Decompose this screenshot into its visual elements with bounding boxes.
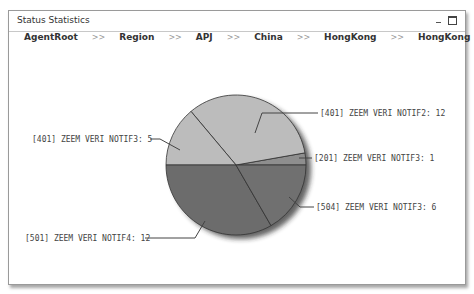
pie-slices bbox=[166, 95, 306, 235]
label-504-notif3: [504] ZEEM VERI NOTIF3: 6 bbox=[316, 203, 437, 212]
label-401-notif2: [401] ZEEM VERI NOTIF2: 12 bbox=[320, 109, 445, 118]
pie-chart: [401] ZEEM VERI NOTIF2: 12 [401] ZEEM VE… bbox=[0, 0, 474, 294]
label-401-notif3: [401] ZEEM VERI NOTIF3: 5 bbox=[32, 135, 153, 144]
label-501-notif4: [501] ZEEM VERI NOTIF4: 12 bbox=[25, 234, 150, 243]
label-201-notif3: [201] ZEEM VERI NOTIF3: 1 bbox=[314, 154, 435, 163]
